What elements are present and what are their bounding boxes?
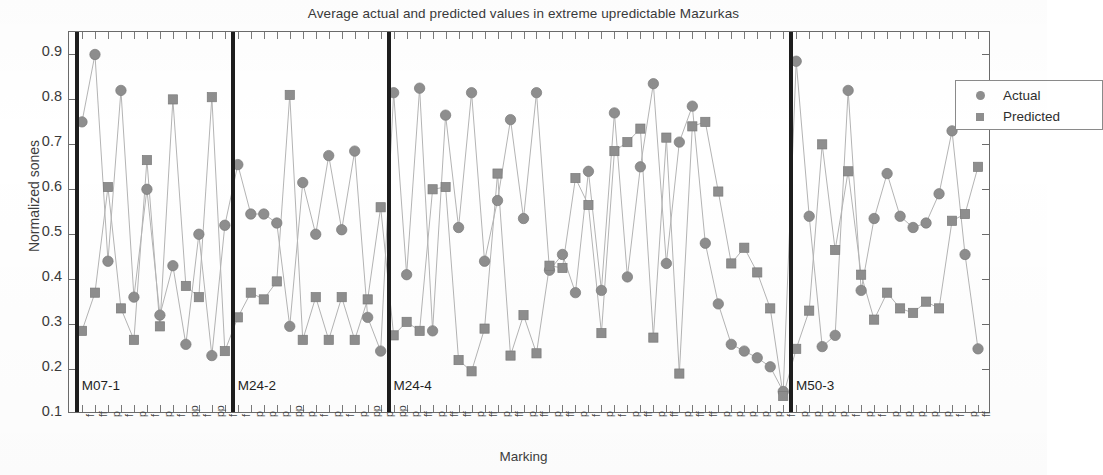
data-point-actual	[142, 184, 152, 194]
data-point-actual	[557, 249, 567, 259]
data-point-actual	[700, 238, 710, 248]
data-point-actual	[739, 346, 749, 356]
data-point-actual	[908, 222, 918, 232]
data-point-actual	[804, 211, 814, 221]
x-tick-label: ff	[565, 411, 576, 417]
x-axis-label: Marking	[0, 449, 1047, 464]
y-tick-label: 0.5	[26, 223, 62, 239]
data-point-predicted	[480, 324, 489, 333]
data-point-actual	[934, 189, 944, 199]
x-tick-label: p	[604, 411, 615, 417]
series-line-actual	[82, 54, 978, 391]
x-tick-label: f	[150, 414, 161, 417]
data-point-predicted	[454, 355, 463, 364]
data-point-predicted	[870, 315, 879, 324]
circle-marker-icon	[969, 91, 991, 100]
data-point-actual	[427, 326, 437, 336]
x-tick-label: p	[384, 411, 395, 417]
plot-inner: M07-1M24-2M24-4M50-3	[69, 32, 989, 412]
section-label: M50-3	[796, 378, 834, 393]
y-tick-label: 0.9	[26, 43, 62, 59]
data-point-actual	[362, 312, 372, 322]
chart-title: Average actual and predicted values in e…	[0, 6, 1047, 21]
x-tick-label: f	[851, 414, 862, 417]
square-marker-icon	[969, 113, 991, 121]
x-tick-label: f	[124, 414, 135, 417]
section-divider	[387, 32, 391, 412]
data-point-actual	[570, 287, 580, 297]
y-tick-label: 0.1	[26, 403, 62, 419]
x-tick-label: p	[501, 411, 512, 417]
data-point-actual	[531, 87, 541, 97]
data-point-predicted	[701, 117, 710, 126]
data-point-predicted	[753, 268, 762, 277]
data-point-predicted	[766, 304, 775, 313]
data-point-predicted	[90, 288, 99, 297]
x-tick-label: p	[773, 411, 784, 417]
x-tick-label: p	[552, 411, 563, 417]
x-tick-label: p	[267, 411, 278, 417]
x-tick-label: ff	[423, 411, 434, 417]
x-tick-label: ff	[514, 411, 525, 417]
data-point-actual	[103, 256, 113, 266]
x-tick-label: f	[591, 414, 602, 417]
x-tick-label: p	[929, 411, 940, 417]
x-tick-label: p	[527, 411, 538, 417]
x-tick-label: ff	[695, 411, 706, 417]
data-point-predicted	[831, 245, 840, 254]
x-tick-label: ff	[488, 411, 499, 417]
data-point-actual	[687, 101, 697, 111]
data-point-predicted	[545, 261, 554, 270]
x-tick-label: p	[721, 411, 732, 417]
x-tick-label: p	[280, 411, 291, 417]
y-tick-label: 0.4	[26, 268, 62, 284]
section-label: M24-2	[238, 378, 276, 393]
plot-area: M07-1M24-2M24-4M50-3 Actual Predicted	[68, 31, 990, 413]
data-point-actual	[298, 177, 308, 187]
data-point-predicted	[428, 185, 437, 194]
data-point-predicted	[506, 351, 515, 360]
x-tick-label: f	[176, 414, 187, 417]
data-point-predicted	[636, 124, 645, 133]
data-point-actual	[194, 229, 204, 239]
data-point-predicted	[337, 293, 346, 302]
data-point-predicted	[155, 322, 164, 331]
data-point-actual	[583, 166, 593, 176]
data-point-predicted	[805, 306, 814, 315]
data-point-actual	[895, 211, 905, 221]
x-tick-label: f	[345, 414, 356, 417]
x-tick-label: p	[332, 411, 343, 417]
data-point-predicted	[818, 140, 827, 149]
data-point-actual	[843, 85, 853, 95]
data-point-actual	[726, 339, 736, 349]
data-point-actual	[401, 269, 411, 279]
data-point-actual	[453, 222, 463, 232]
x-tick-label: p	[864, 411, 875, 417]
data-point-predicted	[103, 182, 112, 191]
data-point-predicted	[194, 293, 203, 302]
data-point-actual	[960, 249, 970, 259]
data-point-predicted	[844, 167, 853, 176]
x-tick-label: p	[799, 411, 810, 417]
data-point-predicted	[597, 329, 606, 338]
data-point-actual	[129, 292, 139, 302]
data-point-predicted	[610, 146, 619, 155]
x-tick-label: ff	[669, 411, 680, 417]
x-tick-label: ff	[981, 411, 992, 417]
y-tick-label: 0.6	[26, 178, 62, 194]
x-tick-labels: fffpfpfpfppfppffppppppfpfpppppppffpffffp…	[68, 415, 990, 449]
data-point-actual	[921, 218, 931, 228]
data-point-actual	[674, 137, 684, 147]
data-point-predicted	[584, 200, 593, 209]
section-label: M24-4	[394, 378, 432, 393]
x-tick-label: p	[812, 411, 823, 417]
data-point-actual	[622, 272, 632, 282]
data-point-actual	[90, 49, 100, 59]
x-tick-label: p	[760, 411, 771, 417]
x-tick-label: p	[254, 411, 265, 417]
data-point-actual	[479, 256, 489, 266]
data-point-predicted	[895, 304, 904, 313]
section-divider	[75, 32, 79, 412]
data-point-actual	[518, 213, 528, 223]
data-point-actual	[661, 258, 671, 268]
